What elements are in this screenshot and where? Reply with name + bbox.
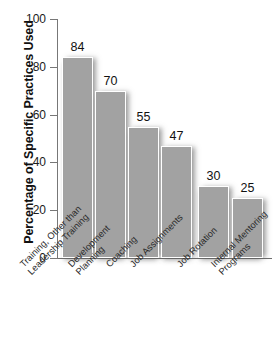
bar-value-label: 30 (207, 169, 221, 183)
bar-column[interactable]: 55 (128, 19, 159, 258)
bar-value-label: 84 (71, 40, 85, 54)
bar-value-label: 25 (241, 181, 255, 195)
bar-chart: Percentage of Specific Practices Used 02… (0, 0, 278, 343)
y-tick-label: 40 (6, 155, 46, 169)
bar-column[interactable]: 30 (198, 19, 229, 258)
bar[interactable] (161, 146, 192, 258)
bar-column[interactable]: 70 (95, 19, 126, 258)
y-tick-label: 20 (6, 203, 46, 217)
y-tick-label: 60 (6, 108, 46, 122)
y-tick-label: 100 (6, 12, 46, 26)
bar-value-label: 70 (104, 74, 118, 88)
y-tick-label: 80 (6, 60, 46, 74)
plot-area: 847055473025 (57, 20, 272, 258)
y-axis-title: Percentage of Specific Practices Used (22, 7, 36, 257)
bar-value-label: 55 (137, 110, 151, 124)
bar-value-label: 47 (170, 129, 184, 143)
